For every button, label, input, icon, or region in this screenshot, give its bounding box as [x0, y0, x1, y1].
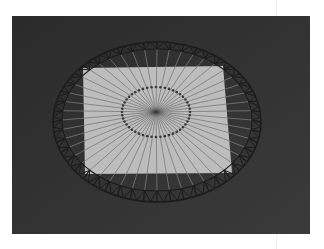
inner-ring-node — [128, 126, 131, 129]
inner-ring-node — [146, 135, 149, 138]
inner-ring-node — [134, 91, 137, 94]
inner-ring-node — [184, 123, 187, 126]
inner-ring-node — [188, 107, 191, 110]
inner-ring-node — [172, 132, 175, 135]
inner-ring-node — [155, 86, 158, 89]
inner-ring-node — [179, 93, 182, 96]
inner-ring-node — [182, 126, 185, 129]
inner-ring-node — [155, 136, 158, 139]
inner-ring-node — [172, 89, 175, 92]
inner-ring-node — [188, 114, 191, 117]
inner-ring-node — [186, 101, 189, 104]
truss-diagonal — [224, 69, 235, 70]
inner-ring-node — [182, 95, 185, 98]
inner-ring-node — [168, 134, 171, 137]
inner-ring-node — [138, 89, 141, 92]
inner-ring-node — [125, 98, 128, 101]
inner-ring-node — [179, 128, 182, 131]
inner-ring-node — [188, 117, 191, 120]
inner-ring-node — [142, 88, 145, 91]
inner-ring-node — [122, 117, 125, 120]
inner-ring-node — [146, 87, 149, 90]
inner-ring-node — [163, 135, 166, 138]
inner-ring-node — [128, 95, 131, 98]
inner-ring-node — [163, 87, 166, 90]
truss-post — [54, 111, 63, 112]
inner-ring-node — [121, 107, 124, 110]
inner-ring-node — [138, 132, 141, 135]
wireframe-render — [0, 0, 324, 249]
inner-ring-node — [186, 120, 189, 123]
inner-ring-node — [134, 131, 137, 134]
inner-ring-node — [142, 134, 145, 137]
inner-ring-node — [175, 91, 178, 94]
inner-ring-node — [125, 123, 128, 126]
inner-ring-node — [159, 86, 162, 89]
inner-ring-node — [121, 114, 124, 117]
inner-ring-node — [184, 98, 187, 101]
inner-ring-node — [150, 86, 153, 89]
inner-ring-node — [159, 135, 162, 138]
inner-ring-node — [123, 120, 126, 123]
inner-ring-node — [150, 135, 153, 138]
inner-ring-node — [121, 111, 124, 114]
inner-ring-node — [131, 128, 134, 131]
inner-ring-node — [188, 104, 191, 107]
inner-ring-node — [168, 88, 171, 91]
inner-ring-node — [189, 111, 192, 114]
inner-ring-node — [131, 93, 134, 96]
inner-ring-node — [175, 131, 178, 134]
inner-ring-node — [122, 104, 125, 107]
inner-ring-node — [123, 101, 126, 104]
central-hub — [144, 105, 168, 119]
truss-diagonal — [59, 147, 70, 148]
